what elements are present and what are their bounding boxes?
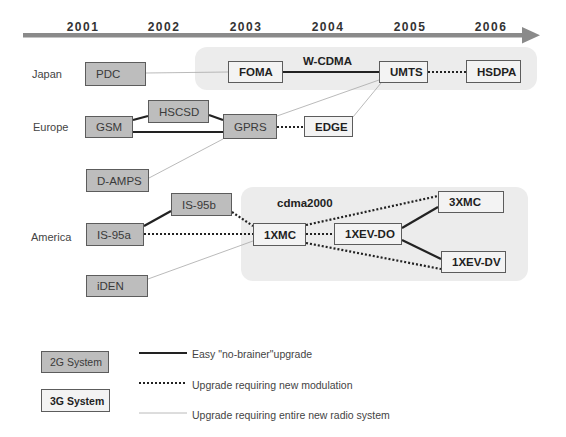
system-box-1xev-dv: 1XEV-DV <box>441 251 506 273</box>
system-box-is-95a: IS-95a <box>86 223 144 246</box>
region-label-europe: Europe <box>33 121 68 133</box>
system-box-pdc: PDC <box>85 62 146 86</box>
system-box-iden: iDEN <box>86 275 148 297</box>
legend-modulation-label: Upgrade requiring new modulation <box>192 379 353 391</box>
system-box-hsdpa: HSDPA <box>466 60 521 83</box>
region-label-japan: Japan <box>32 68 62 80</box>
system-box-3xmc: 3XMC <box>438 191 504 213</box>
wcdma-group-label: W-CDMA <box>303 55 352 67</box>
legend-2g-system: 2G System <box>41 351 109 373</box>
system-box-gprs: GPRS <box>223 114 277 139</box>
system-box-d-amps: D-AMPS <box>86 169 149 192</box>
system-box-gsm: GSM <box>85 116 133 138</box>
system-box-hscsd: HSCSD <box>148 100 209 123</box>
legend-easy-label: Easy "no-brainer"upgrade <box>192 348 312 360</box>
cdma2000-group-label: cdma2000 <box>277 197 333 209</box>
region-label-america: America <box>31 231 71 243</box>
system-box-1xmc: 1XMC <box>253 223 306 246</box>
system-box-is-95b: IS-95b <box>171 193 232 216</box>
legend-radio-label: Upgrade requiring entire new radio syste… <box>192 409 390 421</box>
timeline-arrow <box>23 27 540 44</box>
system-box-foma: FOMA <box>228 61 283 83</box>
system-box-edge: EDGE <box>304 116 353 137</box>
system-box-1xev-do: 1XEV-DO <box>334 223 402 245</box>
system-box-umts: UMTS <box>379 61 428 83</box>
legend-3g-system: 3G System <box>41 389 110 412</box>
